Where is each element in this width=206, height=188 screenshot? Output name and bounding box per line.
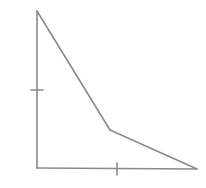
lower-slant-edge — [110, 130, 197, 169]
geometry-diagram — [0, 0, 206, 188]
upper-slant-edge — [37, 11, 110, 130]
